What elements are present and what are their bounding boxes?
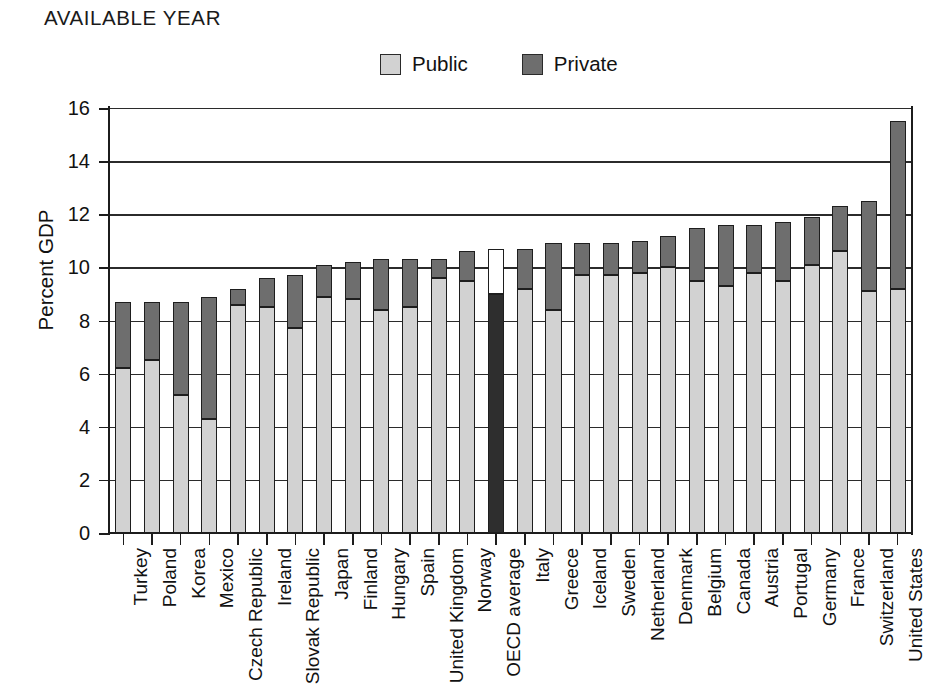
x-tick-mark-4 — [237, 534, 239, 545]
bar-segment-private — [345, 262, 361, 299]
bar-segment-private — [402, 259, 418, 307]
bar-series-container — [109, 108, 912, 533]
bar-segment-public — [402, 307, 418, 533]
bar-segment-private — [201, 297, 217, 419]
bar-france[interactable] — [832, 108, 848, 533]
bar-hungary[interactable] — [373, 108, 389, 533]
bar-segment-public — [345, 299, 361, 533]
x-tick-mark-6 — [295, 534, 297, 545]
bar-segment-public — [890, 289, 906, 533]
x-tick-mark-21 — [725, 534, 727, 545]
x-tick-label-poland: Poland — [159, 548, 181, 607]
bar-segment-public — [574, 275, 590, 533]
bar-segment-private — [517, 249, 533, 289]
bar-iceland[interactable] — [574, 108, 590, 533]
bar-finland[interactable] — [345, 108, 361, 533]
bar-oecd-average[interactable] — [488, 108, 504, 533]
bar-segment-public — [660, 267, 676, 533]
bar-japan[interactable] — [316, 108, 332, 533]
x-tick-label-spain: Spain — [417, 548, 439, 597]
bar-segment-private — [459, 251, 475, 280]
bar-segment-public — [775, 281, 791, 533]
x-tick-mark-12 — [467, 534, 469, 545]
page-title: AVAILABLE YEAR — [44, 6, 221, 30]
bar-segment-public — [201, 419, 217, 533]
y-tick-mark-6 — [99, 374, 108, 376]
bar-sweden[interactable] — [603, 108, 619, 533]
bar-united-states[interactable] — [890, 108, 906, 533]
bar-segment-public — [459, 281, 475, 533]
bar-segment-private — [746, 225, 762, 273]
bar-segment-private — [632, 241, 648, 273]
y-tick-label-14: 14 — [56, 150, 90, 173]
bar-united-kingdom[interactable] — [431, 108, 447, 533]
bar-segment-public — [259, 307, 275, 533]
x-tick-label-mexico: Mexico — [216, 548, 238, 608]
bar-korea[interactable] — [173, 108, 189, 533]
x-tick-label-japan: Japan — [331, 548, 353, 600]
bar-ireland[interactable] — [259, 108, 275, 533]
y-tick-mark-14 — [99, 161, 108, 163]
bar-segment-public — [373, 310, 389, 533]
x-tick-label-ireland: Ireland — [274, 548, 296, 606]
x-tick-mark-5 — [266, 534, 268, 545]
y-tick-label-6: 6 — [56, 362, 90, 385]
x-tick-label-czech-republic: Czech Republic — [245, 548, 267, 681]
bar-poland[interactable] — [144, 108, 160, 533]
legend-swatch-private-icon — [522, 54, 543, 75]
bar-portugal[interactable] — [775, 108, 791, 533]
y-tick-label-10: 10 — [56, 256, 90, 279]
y-tick-label-0: 0 — [56, 522, 90, 545]
bar-greece[interactable] — [545, 108, 561, 533]
bar-segment-public — [316, 297, 332, 533]
bar-norway[interactable] — [459, 108, 475, 533]
bar-segment-private — [660, 236, 676, 268]
bar-germany[interactable] — [804, 108, 820, 533]
bar-segment-public — [632, 273, 648, 533]
bar-netherland[interactable] — [632, 108, 648, 533]
x-tick-mark-25 — [840, 534, 842, 545]
bar-turkey[interactable] — [115, 108, 131, 533]
legend-label-private: Private — [554, 52, 618, 76]
legend-swatch-public-icon — [380, 54, 401, 75]
bar-spain[interactable] — [402, 108, 418, 533]
bar-denmark[interactable] — [660, 108, 676, 533]
x-tick-label-germany: Germany — [819, 548, 841, 626]
bar-segment-private — [316, 265, 332, 297]
bar-segment-private — [287, 275, 303, 328]
x-tick-mark-14 — [524, 534, 526, 545]
bar-italy[interactable] — [517, 108, 533, 533]
bar-segment-public — [804, 265, 820, 533]
bar-canada[interactable] — [718, 108, 734, 533]
bar-segment-private — [574, 243, 590, 275]
bar-segment-public — [517, 289, 533, 533]
bar-segment-private — [173, 302, 189, 395]
x-tick-label-slovak-republic: Slovak Republic — [302, 548, 324, 684]
bar-segment-public — [173, 395, 189, 533]
x-tick-mark-17 — [610, 534, 612, 545]
x-tick-mark-27 — [897, 534, 899, 545]
x-tick-label-belgium: Belgium — [704, 548, 726, 617]
x-tick-label-finland: Finland — [360, 548, 382, 610]
bar-czech-republic[interactable] — [230, 108, 246, 533]
y-tick-label-8: 8 — [56, 309, 90, 332]
bar-austria[interactable] — [746, 108, 762, 533]
x-tick-label-turkey: Turkey — [130, 548, 152, 605]
bar-segment-private — [861, 201, 877, 291]
bar-belgium[interactable] — [689, 108, 705, 533]
x-tick-mark-19 — [667, 534, 669, 545]
bar-segment-private — [890, 121, 906, 288]
bar-mexico[interactable] — [201, 108, 217, 533]
bar-slovak-republic[interactable] — [287, 108, 303, 533]
bar-segment-public — [718, 286, 734, 533]
x-tick-label-oecd-average: OECD average — [503, 548, 525, 677]
bar-segment-public — [832, 251, 848, 533]
bar-segment-private — [545, 243, 561, 309]
bar-segment-public — [431, 278, 447, 533]
x-tick-label-sweden: Sweden — [618, 548, 640, 617]
x-tick-mark-2 — [180, 534, 182, 545]
bar-segment-private — [689, 228, 705, 281]
bar-switzerland[interactable] — [861, 108, 877, 533]
y-tick-label-16: 16 — [56, 97, 90, 120]
bar-segment-private — [259, 278, 275, 307]
